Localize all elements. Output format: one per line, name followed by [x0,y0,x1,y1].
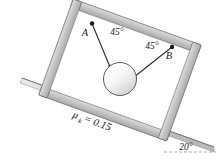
physics-figure-canvas: 20° A [0,0,220,162]
cable-a-angle-label: 45° [110,27,124,37]
incline-angle-label: 20° [179,142,193,152]
figure-root: 20° A [0,0,220,162]
cable-a-anchor-point [90,21,94,25]
sphere-body [104,63,137,96]
cable-b-anchor-point [170,45,174,49]
suspended-sphere [104,63,137,96]
cable-b-angle-label: 45° [145,41,159,51]
cable-a-label: A [81,27,89,38]
cable-b-label: B [166,50,173,61]
